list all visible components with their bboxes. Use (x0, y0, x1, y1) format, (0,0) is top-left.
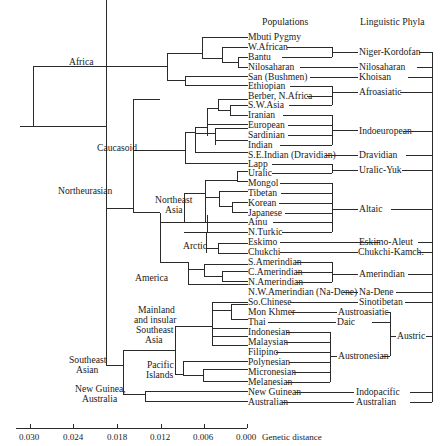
phyla-labels: Niger-Kordofan Nilosaharan Khoisan Afroa… (337, 46, 425, 407)
axis-tick-label: 0.024 (63, 432, 84, 442)
phylum-label: Austronesian (338, 350, 389, 361)
clade-labels: Africa Caucasoid Northeurasian Northeast… (58, 56, 207, 404)
axis-title: Genetic distance (262, 432, 322, 442)
axis-tick-label: 0.012 (150, 432, 170, 442)
populations-header: Populations (262, 16, 308, 27)
phylogenetic-tree-figure: Populations Linguistic Phyla (0, 0, 448, 446)
linguistic-phyla-header: Linguistic Phyla (360, 16, 425, 27)
axis-tick-label: 0.030 (19, 432, 40, 442)
phylum-label: Dravidian (359, 149, 398, 160)
clade-label-northeast-asia-2: Asia (165, 204, 183, 215)
tree-branches (20, 0, 248, 401)
clade-label-africa: Africa (69, 56, 94, 67)
clade-label-caucasoid: Caucasoid (97, 142, 137, 153)
clade-label-america: America (135, 272, 169, 283)
clade-label-new-guinea-2: Australia (82, 393, 118, 404)
clade-label-northeurasian: Northeurasian (58, 185, 113, 196)
phylum-label: Chukchi-Kamch. (358, 246, 424, 257)
clade-label-mainland-4: Asia (145, 334, 163, 345)
axis-tick-label: 0.000 (236, 432, 257, 442)
phylum-label: Uralic-Yuk (359, 164, 402, 175)
phylum-label: Australian (356, 396, 396, 407)
phylum-label: Afroasiatic (359, 86, 402, 97)
phylum-label: Amerindian (359, 268, 405, 279)
phylum-label: Austric (397, 330, 425, 341)
phyla-master-bracket (391, 52, 432, 402)
clade-label-pacific-2: Islands (146, 369, 173, 380)
axis-tick-label: 0.018 (107, 432, 128, 442)
phylum-label: Khoisan (359, 71, 391, 82)
genetic-distance-axis: 0.030 0.024 0.018 0.012 0.006 0.000 Gene… (16, 424, 322, 442)
clade-label-southeast-asian-2: Asian (76, 364, 99, 375)
phylum-label: Niger-Kordofan (359, 46, 421, 57)
phylum-label: Altaic (359, 203, 382, 214)
phylum-label: Daic (337, 316, 355, 327)
clade-label-arctic: Arctic (183, 240, 207, 251)
axis-tick-label: 0.006 (193, 432, 214, 442)
